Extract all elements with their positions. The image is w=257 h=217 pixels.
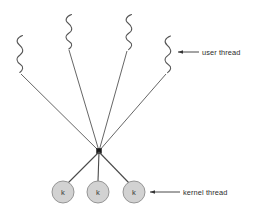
user-thread-annotation-label: user thread xyxy=(202,48,241,57)
kernel-thread-connector-2 xyxy=(98,152,99,181)
user-thread-connectors xyxy=(21,50,166,151)
user-thread-squiggle-3 xyxy=(126,15,132,50)
threading-model-diagram: k k k user thread kernel thread xyxy=(0,0,257,217)
kernel-thread-label-2: k xyxy=(96,188,100,197)
kernel-thread-node-1[interactable]: k xyxy=(52,181,74,203)
user-thread-squiggles xyxy=(17,15,171,73)
kernel-thread-label-1: k xyxy=(61,188,65,197)
kernel-thread-connectors xyxy=(68,152,129,183)
user-thread-squiggle-2 xyxy=(66,15,72,50)
kernel-thread-annotation: kernel thread xyxy=(150,188,227,197)
kernel-thread-connector-1 xyxy=(68,152,99,183)
user-thread-annotation: user thread xyxy=(178,48,241,57)
kernel-thread-node-3[interactable]: k xyxy=(123,181,145,203)
user-thread-squiggle-1 xyxy=(17,36,23,73)
kernel-thread-label-3: k xyxy=(132,188,136,197)
kernel-thread-annotation-label: kernel thread xyxy=(183,188,227,197)
kernel-thread-nodes: k k k xyxy=(52,181,145,203)
user-thread-connector-3 xyxy=(99,51,127,151)
user-thread-connector-4 xyxy=(99,74,166,151)
user-thread-squiggle-4 xyxy=(165,36,171,73)
diagram-canvas: k k k user thread kernel thread xyxy=(0,0,257,217)
kernel-thread-connector-3 xyxy=(99,152,129,183)
kernel-thread-node-2[interactable]: k xyxy=(87,181,109,203)
